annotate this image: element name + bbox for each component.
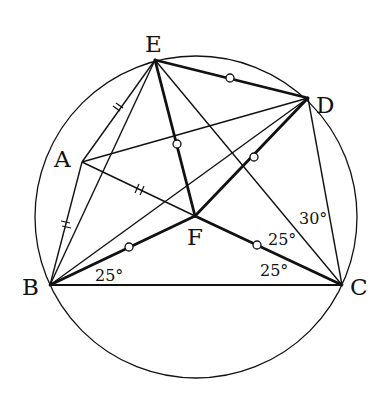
angle-FCB: 25° bbox=[260, 261, 288, 280]
segment-AF bbox=[82, 162, 195, 216]
circle-marker-ED bbox=[226, 74, 234, 82]
label-D: D bbox=[316, 92, 334, 118]
segment-AB bbox=[50, 162, 82, 285]
segment-BD bbox=[50, 98, 308, 285]
label-C: C bbox=[350, 274, 368, 300]
circle-marker-EF bbox=[173, 140, 181, 148]
segment-EB bbox=[50, 60, 155, 285]
double-tick-EA bbox=[113, 103, 123, 111]
thick-segments bbox=[50, 60, 342, 285]
segment-DC bbox=[308, 98, 342, 285]
angle-DCE: 30° bbox=[299, 209, 327, 228]
label-A: A bbox=[53, 146, 71, 172]
label-B: B bbox=[22, 274, 39, 300]
double-tick-markers bbox=[61, 103, 144, 228]
circle-marker-FC bbox=[253, 241, 261, 249]
label-F: F bbox=[187, 224, 203, 250]
angle-ECF: 25° bbox=[268, 230, 296, 249]
geometry-diagram: E D A F B C 25° 25° 25° 30° bbox=[0, 0, 390, 407]
angle-FBC: 25° bbox=[95, 266, 123, 285]
circle-marker-BF bbox=[125, 243, 133, 251]
circle-marker-FD bbox=[250, 153, 258, 161]
vertex-labels: E D A F B C bbox=[22, 31, 368, 300]
thin-segments bbox=[50, 60, 342, 285]
label-E: E bbox=[145, 31, 162, 57]
